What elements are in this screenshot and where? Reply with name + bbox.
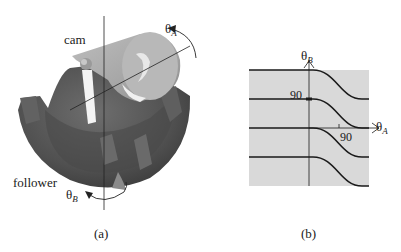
- theta-b-arrowhead-icon: [85, 191, 93, 199]
- angle-relationship-plot: [200, 0, 401, 252]
- y-tick-label: 90: [290, 89, 302, 101]
- theta-a-label: θA: [165, 22, 177, 38]
- x-axis-label: θA: [376, 120, 388, 136]
- cam-label: cam: [64, 33, 86, 46]
- y-tick-90: [306, 98, 312, 101]
- theta-b-subscript: B: [72, 194, 78, 204]
- y-axis-subscript: B: [307, 55, 313, 65]
- y-axis-label: θB: [301, 49, 313, 65]
- theta-b-label: θB: [66, 188, 78, 204]
- x-tick-label: 90: [340, 131, 352, 143]
- theta-a-subscript: A: [171, 28, 177, 38]
- caption-a: (a): [94, 227, 108, 240]
- follower-label: follower: [13, 176, 57, 189]
- panel-b-chart: θB θA 90 90 (b): [200, 0, 401, 252]
- caption-b: (b): [301, 227, 316, 240]
- panel-a-mechanism: cam follower θA θB (a): [0, 0, 200, 252]
- x-axis-subscript: A: [382, 126, 388, 136]
